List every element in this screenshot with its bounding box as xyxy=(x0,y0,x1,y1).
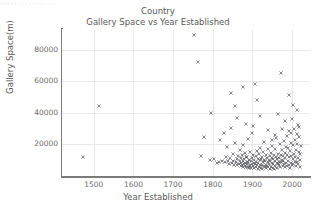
data-point-marker xyxy=(297,125,301,129)
data-point-marker xyxy=(262,140,266,144)
data-point-marker xyxy=(246,137,250,141)
data-point-marker xyxy=(295,108,299,112)
data-point-marker xyxy=(283,119,287,123)
data-point-marker xyxy=(276,112,280,116)
data-point-marker xyxy=(297,135,301,139)
data-point-marker xyxy=(222,131,226,135)
data-point-marker xyxy=(233,141,237,145)
y-axis-label: Gallery Space(m) xyxy=(5,0,15,117)
data-point-marker xyxy=(258,114,262,118)
data-point-marker xyxy=(235,116,239,120)
x-axis-spine xyxy=(61,176,311,178)
gridline-vertical xyxy=(213,29,214,176)
data-point-marker xyxy=(280,127,284,131)
data-point-marker xyxy=(266,128,270,132)
x-tick-label: 1800 xyxy=(193,180,233,189)
data-point-marker xyxy=(290,117,294,121)
data-point-marker xyxy=(229,126,233,130)
data-point-marker xyxy=(251,124,255,128)
x-tick-label: 1500 xyxy=(74,180,114,189)
data-point-marker xyxy=(202,135,206,139)
gridline-horizontal xyxy=(62,50,310,51)
data-point-marker xyxy=(244,122,248,126)
y-tick-label: 20000 xyxy=(6,140,58,148)
data-point-marker xyxy=(258,146,262,150)
data-point-marker xyxy=(298,158,302,162)
data-point-marker xyxy=(287,93,291,97)
data-point-marker xyxy=(199,154,203,158)
data-point-marker xyxy=(196,60,200,64)
x-tick-label: 2000 xyxy=(272,180,312,189)
chart-title: Country xyxy=(0,6,316,17)
data-point-marker xyxy=(241,85,245,89)
data-point-marker xyxy=(298,152,302,156)
data-point-marker xyxy=(299,144,303,148)
gridline-vertical xyxy=(94,29,95,176)
data-point-marker xyxy=(298,165,302,169)
gridline-horizontal xyxy=(62,81,310,82)
data-point-marker xyxy=(291,103,295,107)
data-point-marker xyxy=(231,152,235,156)
data-point-marker xyxy=(282,139,286,143)
data-point-marker xyxy=(192,33,196,37)
data-point-marker xyxy=(289,131,293,135)
x-tick-label: 1700 xyxy=(153,180,193,189)
data-point-marker xyxy=(250,131,254,135)
gridline-vertical xyxy=(133,29,134,176)
data-point-marker xyxy=(229,91,233,95)
data-point-marker xyxy=(270,138,274,142)
data-point-marker xyxy=(218,138,222,142)
data-point-marker xyxy=(253,82,257,86)
data-point-marker xyxy=(225,145,229,149)
data-point-marker xyxy=(209,111,213,115)
data-point-marker xyxy=(279,71,283,75)
gridline-horizontal xyxy=(62,113,310,114)
top-edge-artifact: ····· ··· ··· ·· xyxy=(0,0,120,7)
x-tick-label: 1600 xyxy=(113,180,153,189)
data-point-marker xyxy=(273,133,277,137)
chart-subtitle: Gallery Space vs Year Established xyxy=(0,17,316,28)
data-point-marker xyxy=(97,104,101,108)
x-axis-label: Year Established xyxy=(0,192,316,202)
x-tick-label: 1900 xyxy=(232,180,272,189)
data-point-marker xyxy=(255,98,259,102)
gridline-vertical xyxy=(173,29,174,176)
data-point-marker xyxy=(81,155,85,159)
data-point-marker xyxy=(233,104,237,108)
chart-figure: ····· ··· ··· ·· Country Gallery Space v… xyxy=(0,0,316,207)
data-point-marker xyxy=(241,143,245,147)
plot-area xyxy=(62,29,310,176)
chart-title-block: Country Gallery Space vs Year Establishe… xyxy=(0,6,316,28)
